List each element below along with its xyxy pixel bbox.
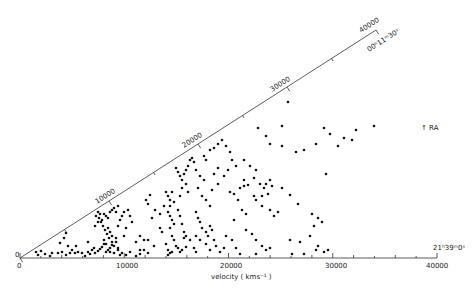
galaxy-point: [97, 221, 100, 224]
galaxy-point: [179, 195, 182, 198]
galaxy-point: [169, 205, 172, 208]
galaxy-point: [289, 239, 292, 242]
galaxy-point: [227, 169, 230, 172]
galaxy-point: [247, 184, 250, 187]
galaxy-point: [44, 253, 47, 256]
galaxy-point: [255, 253, 258, 256]
galaxy-point: [229, 151, 232, 154]
galaxy-point: [225, 235, 228, 238]
galaxy-point: [179, 215, 182, 218]
galaxy-point: [149, 194, 152, 197]
galaxy-point: [111, 209, 114, 212]
galaxy-point: [287, 101, 290, 104]
galaxy-point: [57, 252, 60, 255]
galaxy-point: [109, 211, 112, 214]
galaxy-point: [63, 237, 66, 240]
galaxy-point: [197, 187, 200, 190]
galaxy-point: [209, 205, 212, 208]
galaxy-point: [289, 194, 292, 197]
galaxy-point: [373, 125, 376, 128]
galaxy-point: [121, 252, 124, 255]
diagonal-axis-ticks: [20, 30, 379, 262]
galaxy-point: [215, 245, 218, 248]
galaxy-point: [231, 159, 234, 162]
galaxy-point: [281, 187, 284, 190]
galaxy-point: [177, 247, 180, 250]
galaxy-point: [171, 251, 174, 254]
galaxy-point: [239, 253, 242, 256]
galaxy-point: [143, 239, 146, 242]
galaxy-point: [153, 245, 156, 248]
galaxy-point: [61, 251, 64, 254]
galaxy-point: [94, 225, 97, 228]
galaxy-point: [77, 251, 80, 254]
galaxy-point: [199, 221, 202, 224]
galaxy-point: [355, 129, 358, 132]
galaxy-point: [181, 179, 184, 182]
galaxy-point: [213, 147, 216, 150]
galaxy-point: [93, 247, 96, 250]
galaxy-point: [100, 221, 103, 224]
galaxy-point: [309, 235, 312, 238]
data-points: [35, 101, 376, 258]
galaxy-point: [171, 219, 174, 222]
galaxy-point: [203, 155, 206, 158]
galaxy-point: [115, 237, 118, 240]
galaxy-point: [255, 199, 258, 202]
galaxy-point: [97, 211, 100, 214]
diagonal-tick: [332, 59, 334, 62]
galaxy-point: [235, 247, 238, 250]
x-axis-title: velocity ( kms⁻¹ ): [211, 273, 272, 281]
galaxy-point: [325, 173, 328, 176]
galaxy-point: [291, 253, 294, 256]
galaxy-point: [107, 249, 110, 252]
galaxy-point: [261, 205, 264, 208]
galaxy-point: [219, 251, 222, 254]
axes: [20, 30, 437, 262]
galaxy-point: [269, 143, 272, 146]
galaxy-point: [211, 189, 214, 192]
galaxy-point: [35, 251, 38, 254]
galaxy-point: [209, 225, 212, 228]
galaxy-point: [179, 251, 182, 254]
galaxy-point: [217, 167, 220, 170]
galaxy-point: [195, 169, 198, 172]
galaxy-point: [185, 246, 188, 249]
galaxy-point: [123, 211, 126, 214]
galaxy-point: [269, 179, 272, 182]
galaxy-point: [171, 191, 174, 194]
galaxy-point: [265, 249, 268, 252]
diagonal-tick: [65, 230, 67, 233]
galaxy-point: [317, 217, 320, 220]
galaxy-point: [111, 241, 114, 244]
wedge-diagram: 0 10000 20000 30000 40000 velocity ( kms…: [0, 0, 475, 289]
galaxy-point: [109, 251, 112, 254]
galaxy-point: [271, 185, 274, 188]
galaxy-point: [323, 127, 326, 130]
galaxy-point: [139, 253, 142, 256]
galaxy-point: [123, 235, 126, 238]
galaxy-point: [169, 199, 172, 202]
galaxy-point: [199, 239, 202, 242]
galaxy-point: [241, 209, 244, 212]
origin-diag-label: 0: [15, 251, 19, 259]
galaxy-point: [203, 179, 206, 182]
galaxy-point: [195, 235, 198, 238]
diagonal-tick: [109, 201, 112, 205]
galaxy-point: [95, 215, 98, 218]
galaxy-point: [299, 241, 302, 244]
galaxy-point: [235, 165, 238, 168]
galaxy-point: [183, 173, 186, 176]
galaxy-point: [189, 159, 192, 162]
galaxy-point: [207, 235, 210, 238]
galaxy-point: [108, 237, 111, 240]
galaxy-point: [139, 235, 142, 238]
galaxy-point: [113, 207, 116, 210]
galaxy-point: [195, 211, 198, 214]
galaxy-point: [167, 211, 170, 214]
galaxy-point: [173, 223, 176, 226]
galaxy-point: [151, 217, 154, 220]
galaxy-point: [103, 239, 106, 242]
galaxy-point: [67, 245, 70, 248]
galaxy-point: [65, 254, 68, 257]
